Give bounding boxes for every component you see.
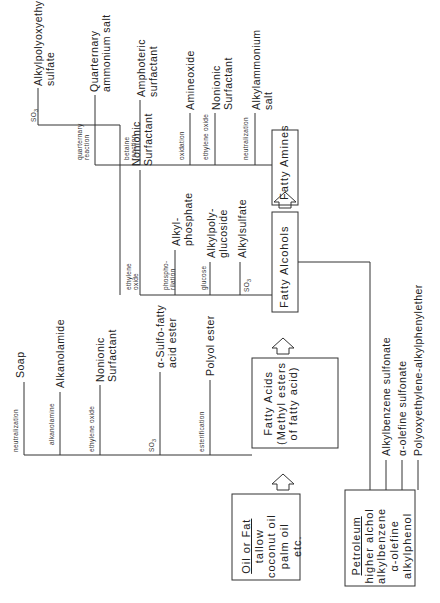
product-label: NonionicSurfactant (94, 329, 118, 382)
fatty-amines-box: Fatty Amines (278, 124, 291, 200)
product-label: Alkanolamide (54, 319, 66, 388)
product-label: Amineoxide (184, 50, 196, 110)
product-label: Alkylpoly-glucoside (205, 208, 229, 258)
reaction-label: ethylene oxide (88, 406, 95, 452)
product-label: NonionicSurfactant (210, 57, 234, 110)
reaction-label: SO3 (30, 109, 40, 122)
reaction-label: betainereaction (123, 134, 138, 160)
oil-fat-text: Oil or Fat tallow coconut oil palm oil e… (240, 514, 303, 578)
product-label: Alkylsulfate (236, 199, 248, 258)
reaction-label: glucose (200, 265, 207, 290)
reaction-label: phospho-rilation (162, 260, 177, 290)
reaction-label: SO3 (243, 279, 253, 292)
reaction-label: quarternaryreaction (76, 123, 91, 160)
petroleum-text: Petroleum higher alchol alkylbenzene α-o… (350, 508, 413, 584)
fatty-alcohols-box: Fatty Alcohols (278, 226, 291, 308)
product-label: Amphotericsurfactant (135, 39, 159, 97)
reaction-label: esterification (198, 411, 205, 452)
surfactant-flow-diagram: Oil or Fat tallow coconut oil palm oil e… (0, 0, 440, 603)
reaction-label: ethyleneoxide (125, 263, 140, 290)
reaction-label: SO3 (148, 439, 158, 452)
product-label: Alkylbenzene sulfonate (380, 337, 392, 456)
reaction-label: neutralization (242, 117, 249, 160)
reaction-label: alkanolamine (48, 403, 55, 445)
reaction-label: ethylene oxide (202, 114, 209, 160)
product-label: Polyoxyethylene-alkylphenylether (412, 284, 424, 456)
product-label: Soap (14, 351, 26, 378)
product-label: Alkylpolyoxyethylenesulfate (32, 0, 56, 86)
reaction-label: neutralization (12, 409, 19, 452)
product-label: α-olefine sulfonate (396, 360, 408, 456)
product-label: Alkylammoniumsalt (250, 29, 274, 110)
product-label: Quarternaryammonium salt (88, 14, 112, 92)
product-label: Alkyl-phosphate (170, 192, 194, 246)
fatty-acids-box: Fatty Acids (Methyl esters of fatty acid… (262, 362, 300, 445)
product-label: α-Sulfo-fattyacid ester (154, 305, 178, 368)
product-label: Polyol ester (204, 315, 216, 376)
reaction-label: oxidation (178, 131, 185, 160)
